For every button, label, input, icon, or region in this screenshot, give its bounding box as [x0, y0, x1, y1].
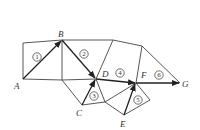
step-2-label: 2 — [82, 50, 86, 58]
step-6-label: 6 — [157, 71, 161, 79]
node-a-label: A — [13, 81, 20, 91]
step-3-label: 3 — [92, 92, 96, 100]
path-edge-4 — [96, 79, 135, 83]
path-edge-5 — [124, 84, 135, 115]
step-1-label: 1 — [35, 53, 39, 61]
step-5-label: 5 — [136, 96, 140, 104]
node-b-label: B — [58, 29, 64, 39]
node-c-label: C — [76, 108, 83, 118]
step-4-label: 4 — [118, 69, 122, 77]
node-g-label: G — [182, 79, 189, 89]
node-f-label: F — [140, 70, 147, 80]
node-e-label: E — [119, 119, 126, 129]
path-edge-1 — [23, 41, 61, 79]
path-edge-2 — [62, 40, 95, 78]
node-d-label: D — [101, 69, 109, 79]
network-diagram: 1 2 3 4 5 6 A B C D E F G — [0, 0, 200, 130]
